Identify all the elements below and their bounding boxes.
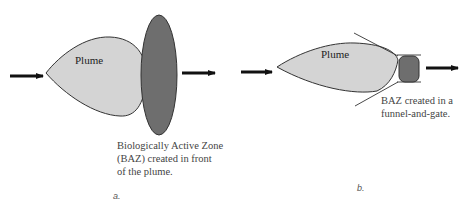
caption-line-b1: BAZ created in a bbox=[381, 95, 453, 106]
caption-line-a1: Biologically Active Zone bbox=[117, 140, 223, 151]
diagram-canvas: Plume Biologically Active Zone (BAZ) cre… bbox=[0, 0, 469, 206]
caption-line-a3: of the plume. bbox=[117, 166, 173, 177]
baz-ellipse-a bbox=[141, 15, 177, 135]
plume-label-b: Plume bbox=[321, 48, 349, 60]
plume-label-a: Plume bbox=[75, 54, 103, 66]
diagram-svg: Plume Biologically Active Zone (BAZ) cre… bbox=[0, 0, 469, 206]
panel-label-b: b. bbox=[357, 183, 365, 193]
baz-gate-b bbox=[399, 56, 419, 82]
panel-a: Plume Biologically Active Zone (BAZ) cre… bbox=[10, 15, 223, 201]
plume-shape-a bbox=[46, 37, 146, 116]
panel-label-a: a. bbox=[113, 191, 121, 201]
caption-line-b2: funnel-and-gate. bbox=[381, 108, 450, 119]
panel-b: Plume BAZ created in a funnel-and-gate. … bbox=[241, 33, 458, 193]
caption-line-a2: (BAZ) created in front bbox=[117, 153, 212, 165]
